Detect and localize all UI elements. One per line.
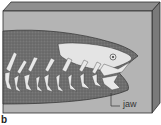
fossil-fish-diagram: jaw b bbox=[0, 0, 161, 125]
panel-label: b bbox=[1, 115, 7, 125]
jaw-label: jaw bbox=[123, 100, 137, 109]
block-side-face bbox=[152, 2, 160, 113]
block-top-face bbox=[3, 2, 160, 11]
